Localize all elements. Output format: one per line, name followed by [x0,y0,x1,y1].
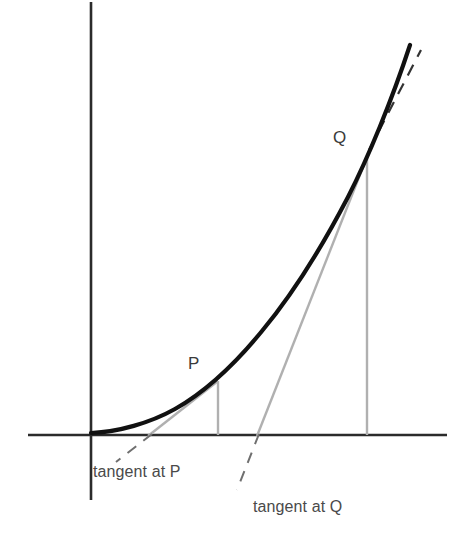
tangent-line-p-dashed [116,434,152,462]
figure-canvas: P Q tangent at P tangent at Q [0,0,469,539]
tangent-line-q-dashed-lower [237,434,259,490]
tangent-line-p-solid [148,381,218,436]
caption-tangent-at-q: tangent at Q [253,499,342,515]
point-label-p: P [188,355,200,372]
diagram-svg [0,0,469,539]
function-curve [91,45,410,433]
caption-tangent-at-p: tangent at P [93,464,181,480]
tangent-line-q-solid [257,157,367,436]
point-label-q: Q [333,129,346,146]
